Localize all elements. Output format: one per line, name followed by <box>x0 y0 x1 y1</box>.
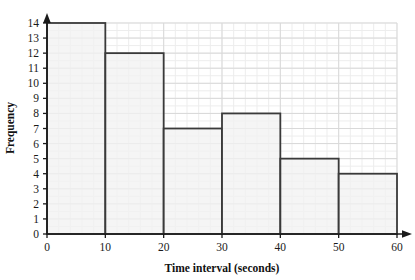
x-axis-arrow <box>402 230 412 238</box>
y-tick-label: 9 <box>33 92 39 104</box>
y-tick-label: 13 <box>28 32 40 44</box>
x-tick-label: 60 <box>391 241 403 253</box>
x-tick-label: 50 <box>333 241 345 253</box>
y-tick-label: 11 <box>28 62 39 74</box>
x-tick-label: 20 <box>158 241 170 253</box>
y-tick-label: 14 <box>28 17 40 29</box>
y-tick-label: 10 <box>28 77 40 89</box>
y-axis-title: Frequency <box>4 102 17 154</box>
histogram-bar <box>47 23 105 234</box>
y-tick-label: 4 <box>33 168 39 180</box>
x-tick-label: 0 <box>44 241 50 253</box>
y-tick-label: 12 <box>28 47 40 59</box>
histogram-plot: 01234567891011121314 0102030405060 Time … <box>0 0 415 280</box>
histogram-bar <box>164 129 222 235</box>
x-axis-title: Time interval (seconds) <box>165 262 280 275</box>
x-tick-label: 40 <box>275 241 287 253</box>
y-tick-label: 0 <box>33 228 39 240</box>
x-tick-label: 10 <box>100 241 112 253</box>
y-tick-label: 6 <box>33 138 39 150</box>
histogram-bar <box>105 53 163 234</box>
x-axis-tick-labels: 0102030405060 <box>44 241 403 253</box>
histogram-figure: 01234567891011121314 0102030405060 Time … <box>0 0 415 280</box>
y-tick-label: 2 <box>33 198 39 210</box>
y-tick-label: 5 <box>33 153 39 165</box>
y-tick-label: 1 <box>33 213 39 225</box>
histogram-bar <box>339 174 397 234</box>
x-tick-label: 30 <box>216 241 228 253</box>
y-tick-label: 7 <box>33 123 39 135</box>
y-tick-label: 3 <box>33 183 39 195</box>
y-tick-label: 8 <box>33 107 39 119</box>
histogram-bar <box>222 113 280 234</box>
histogram-bar <box>280 159 338 234</box>
y-axis-tick-labels: 01234567891011121314 <box>28 17 40 240</box>
